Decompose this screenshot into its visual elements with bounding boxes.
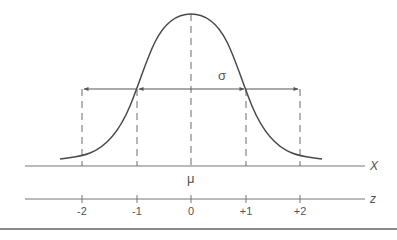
normal-distribution-diagram: σ X μ z -2 -1 0 +1 +2 [0,0,397,240]
z-tick-label: +2 [294,205,307,217]
z-tick-label: +1 [240,205,253,217]
z-axis-label: z [369,192,376,206]
z-tick-label: -2 [77,205,87,217]
z-tick-labels: -2 -1 0 +1 +2 [77,205,306,217]
x-axis-label: X [369,159,379,173]
sigma-label: σ [218,68,226,83]
z-tick-label: -1 [132,205,142,217]
mu-label: μ [187,171,195,186]
z-tick-label: 0 [188,205,194,217]
dashed-guides [82,14,300,166]
